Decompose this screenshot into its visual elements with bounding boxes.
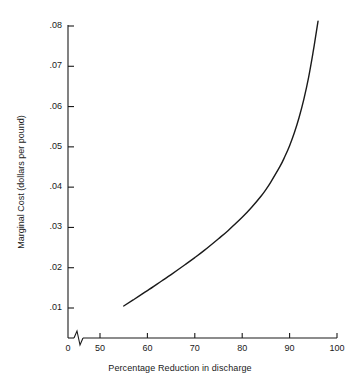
chart-plot-area: Marginal Cost (dollars per pound) (0, 0, 360, 391)
x-axis-tick-label: 60 (132, 344, 162, 353)
y-axis-tick-label: .06 (28, 102, 62, 111)
y-axis-tick-label: .02 (28, 263, 62, 272)
x-axis-ticks (100, 333, 337, 338)
y-axis-tick-label: .07 (28, 61, 62, 70)
y-axis-tick-label: .05 (28, 142, 62, 151)
marginal-cost-curve (124, 21, 318, 306)
x-axis-tick-label: 70 (180, 344, 210, 353)
y-axis-title: Marginal Cost (dollars per pound) (16, 115, 26, 249)
y-axis-ticks (68, 26, 74, 308)
y-axis-tick-label: .08 (28, 21, 62, 30)
x-axis-title: Percentage Reduction in discharge (0, 363, 360, 373)
x-axis-tick-label: 80 (227, 344, 257, 353)
y-axis-tick-label: .01 (28, 303, 62, 312)
x-axis-break-icon (74, 331, 83, 345)
y-axis-tick-label: .03 (28, 222, 62, 231)
x-axis-tick-label: 0 (53, 344, 83, 353)
y-axis-tick-label: .04 (28, 182, 62, 191)
chart-figure: Marginal Cost (dollars per pound) Percen… (0, 0, 360, 391)
x-axis-tick-label: 90 (275, 344, 305, 353)
x-axis-tick-label: 100 (322, 344, 352, 353)
x-axis-tick-label: 50 (85, 344, 115, 353)
